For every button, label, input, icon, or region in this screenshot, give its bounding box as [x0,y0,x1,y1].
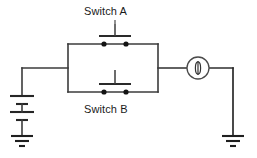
switch-b-contact-right [123,89,128,94]
battery-branch-wiring [22,68,68,95]
ground-left-symbol [11,136,33,146]
lamp-symbol[interactable] [187,57,209,79]
switch-b-label: Switch B [84,104,128,115]
switch-b-contact-left [101,89,106,94]
circuit-schematic-canvas [0,0,257,158]
switch-a-contact-right [123,41,128,46]
switch-b-symbol[interactable] [99,70,131,95]
ground-right-symbol [222,136,244,146]
switch-a-label: Switch A [84,6,127,17]
battery-symbol [10,96,34,135]
switch-a-contact-left [101,41,106,46]
circuit-diagram: Switch A Switch B [0,0,257,158]
